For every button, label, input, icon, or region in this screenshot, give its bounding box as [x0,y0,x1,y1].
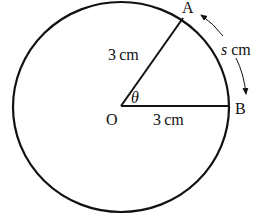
angle-theta-label: θ [131,89,139,106]
point-b-label: B [235,100,246,117]
arc-arrow-up [201,15,223,36]
arc-length-unit: cm [227,41,251,58]
circle-diagram: A B O 3 cm 3 cm θ s cm [0,0,269,224]
arc-arrow-down [236,58,246,94]
point-o-label: O [106,111,118,128]
point-a-label: A [182,0,194,16]
radius-oa-label: 3 cm [108,46,139,63]
radius-ob-label: 3 cm [153,111,184,128]
arc-length-label: s cm [221,41,251,58]
